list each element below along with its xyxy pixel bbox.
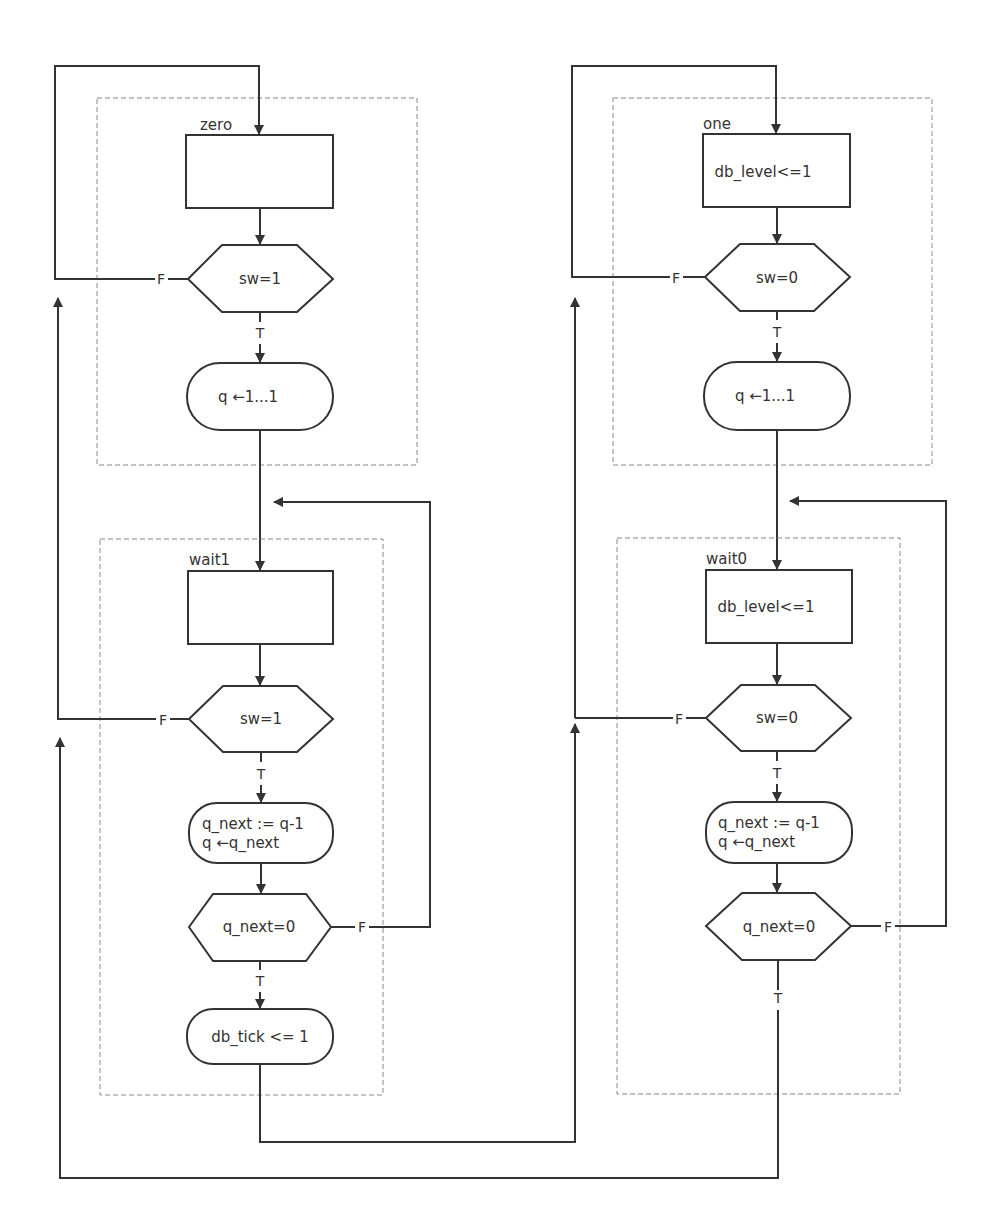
state-block-one: one db_level<=1 sw=0 q ←1...1 <box>613 98 932 465</box>
state-name-wait1: wait1 <box>189 551 230 569</box>
cond-output-wait0-line2: q ←q_next <box>718 833 795 852</box>
decision-wait1-sw-text: sw=1 <box>240 710 282 728</box>
label-true: T <box>773 990 783 1006</box>
cond-output-zero-text: q ←1...1 <box>218 388 278 406</box>
cond-output-wait1-line2: q ←q_next <box>202 834 279 853</box>
cond-output-wait1-line1: q_next := q-1 <box>202 815 304 834</box>
label-true: T <box>255 325 265 341</box>
state-box-wait0-text: db_level<=1 <box>718 598 815 617</box>
label-true: T <box>256 766 266 782</box>
label-false: F <box>157 271 165 287</box>
decision-wait0-qnext-text: q_next=0 <box>743 918 815 937</box>
state-block-zero: zero sw=1 q ←1...1 <box>97 98 417 465</box>
decision-zero-sw-text: sw=1 <box>239 270 281 288</box>
arrow-wait0-to-zero <box>60 738 778 1178</box>
label-false: F <box>358 919 366 935</box>
label-true: T <box>772 765 782 781</box>
state-name-zero: zero <box>200 116 232 134</box>
cond-output-wait0-line1: q_next := q-1 <box>718 814 820 833</box>
state-block-wait1: wait1 sw=1 q_next := q-1 q ←q_next q_nex… <box>100 539 383 1095</box>
cond-output-wait1-tick-text: db_tick <= 1 <box>211 1028 309 1047</box>
label-false: F <box>672 270 680 286</box>
label-false: F <box>675 711 683 727</box>
decision-wait1-qnext-text: q_next=0 <box>223 918 295 937</box>
state-box-zero <box>186 135 333 208</box>
label-false: F <box>884 919 892 935</box>
state-name-wait0: wait0 <box>706 550 747 568</box>
decision-one-sw-text: sw=0 <box>756 269 798 287</box>
cond-output-one-text: q ←1...1 <box>735 387 795 405</box>
asm-chart: zero sw=1 q ←1...1 T F wait1 sw=1 q_next… <box>0 0 998 1227</box>
state-box-wait1 <box>188 571 333 644</box>
state-box-one-text: db_level<=1 <box>715 163 812 182</box>
decision-wait0-sw-text: sw=0 <box>756 709 798 727</box>
label-true: T <box>255 973 265 989</box>
state-block-wait0: wait0 db_level<=1 sw=0 q_next := q-1 q ←… <box>617 538 900 1094</box>
state-name-one: one <box>703 115 731 133</box>
cond-output-wait1-decrement <box>189 803 333 863</box>
label-false: F <box>159 712 167 728</box>
arrow-wait1-false-to-zero <box>58 298 156 719</box>
label-true: T <box>772 324 782 340</box>
